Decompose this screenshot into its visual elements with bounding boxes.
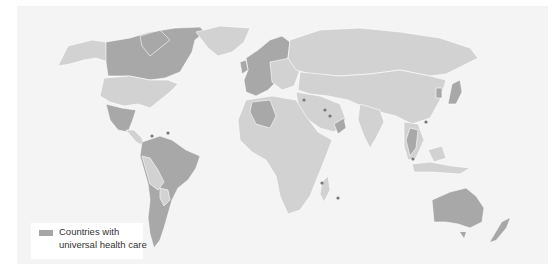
korea	[436, 88, 442, 98]
legend-swatch	[39, 230, 53, 236]
map-figure: Countries with universal health care	[17, 6, 548, 264]
legend: Countries with universal health care	[31, 223, 143, 259]
legend-label-line2: universal health care	[59, 239, 147, 250]
legend-label-line1: Countries with	[59, 226, 119, 237]
